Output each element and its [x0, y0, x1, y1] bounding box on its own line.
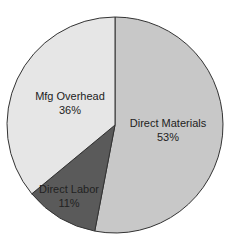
slice-label-name: Direct Labor	[39, 183, 99, 195]
slice-label-name: Direct Materials	[130, 117, 207, 129]
pie-chart: Direct Materials53%Direct Labor11%Mfg Ov…	[0, 0, 228, 239]
slice-label-percent: 36%	[59, 104, 81, 116]
slice-label-percent: 11%	[58, 197, 79, 209]
slice-label-name: Mfg Overhead	[35, 90, 105, 102]
slice-label-percent: 53%	[157, 131, 179, 143]
